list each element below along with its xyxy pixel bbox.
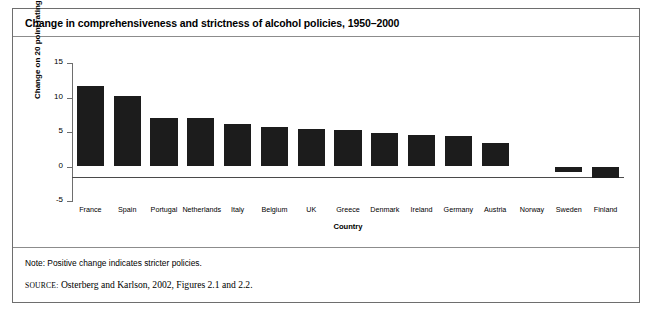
x-axis-tick-labels: FranceSpainPortugalNetherlandsItalyBelgi… [72,205,624,219]
bar-slot [72,63,109,201]
x-axis-tick-label: Italy [219,205,256,214]
x-axis-tick-label: France [72,205,109,214]
y-axis-title: Change on 20 point rating scale [33,0,42,99]
y-axis-tick: 5 [67,132,73,133]
x-axis-tick-label: Ireland [403,205,440,214]
footer-divider [13,247,639,248]
bar-slot [182,63,219,201]
x-axis-tick-label: Sweden [550,205,587,214]
bar-slot [550,63,587,201]
x-axis-tick-label: Greece [330,205,367,214]
x-axis-tick-label: Germany [440,205,477,214]
y-axis-tick-mark [67,201,73,202]
bar [482,143,509,166]
bar-slot [256,63,293,201]
y-axis-tick: 10 [67,98,73,99]
bar [371,133,398,167]
bar-slot [440,63,477,201]
bar-slot [330,63,367,201]
y-axis-tick-mark [67,98,73,99]
y-axis-tick-mark [67,63,73,64]
x-axis-tick-label: UK [293,205,330,214]
bar [114,96,141,166]
figure-title: Change in comprehensiveness and strictne… [25,17,399,29]
x-axis-tick-label: Finland [587,205,624,214]
x-axis-tick-label: Portugal [146,205,183,214]
x-axis-tick-label: Netherlands [182,205,219,214]
bar-series [72,63,624,201]
figure-panel: Change in comprehensiveness and strictne… [0,0,653,313]
x-axis-tick-label: Spain [109,205,146,214]
source-text: Osterberg and Karlson, 2002, Figures 2.1… [61,279,253,290]
bar [187,118,214,167]
bar-slot [219,63,256,201]
figure-source: SOURCE: Osterberg and Karlson, 2002, Fig… [25,279,253,290]
x-axis-tick-label: Belgium [256,205,293,214]
bar-slot [293,63,330,201]
source-label: SOURCE: [25,281,58,290]
y-axis-tick-mark [67,132,73,133]
y-axis-tick: 15 [67,63,73,64]
bar [77,86,104,167]
y-axis-tick: -5 [67,201,73,202]
bar [224,124,251,166]
x-axis-tick-label: Denmark [366,205,403,214]
chart-axes: 151050-5 [72,63,624,201]
y-axis-tick-label: -5 [56,195,63,204]
x-axis-tick-label: Austria [477,205,514,214]
bar-slot [146,63,183,201]
y-axis-tick-label: 10 [54,92,63,101]
bar-slot [109,63,146,201]
y-axis-tick-label: 5 [59,126,63,135]
bar-slot [587,63,624,201]
y-axis-tick-label: 0 [59,161,63,170]
bar-slot [514,63,551,201]
bar [408,135,435,166]
bar-slot [403,63,440,201]
bar-slot [366,63,403,201]
x-axis-title: Country [72,222,624,231]
y-axis-tick-label: 15 [54,57,63,66]
x-axis-tick-label: Norway [514,205,551,214]
figure-note: Note: Positive change indicates stricter… [25,258,202,268]
bar [150,118,177,167]
bar [555,167,582,173]
y-axis-tick-mark [67,167,73,168]
bar [592,167,619,179]
bar [445,136,472,166]
bar-slot [477,63,514,201]
y-axis-tick: 0 [67,167,73,168]
bar [261,127,288,166]
bar [298,129,325,167]
bar [334,130,361,167]
